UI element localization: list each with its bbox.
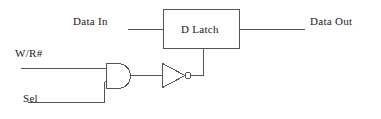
circuit-diagram-canvas: Data In Data Out W/R# Sel D Latch <box>0 0 381 119</box>
data-in-label: Data In <box>73 16 108 27</box>
inverter-body <box>163 64 186 88</box>
sel-label: Sel <box>23 93 38 104</box>
d-latch-label: D Latch <box>181 24 219 35</box>
write-read-label: W/R# <box>15 48 42 59</box>
and-gate-body <box>107 64 131 89</box>
data-out-label: Data Out <box>310 16 352 27</box>
